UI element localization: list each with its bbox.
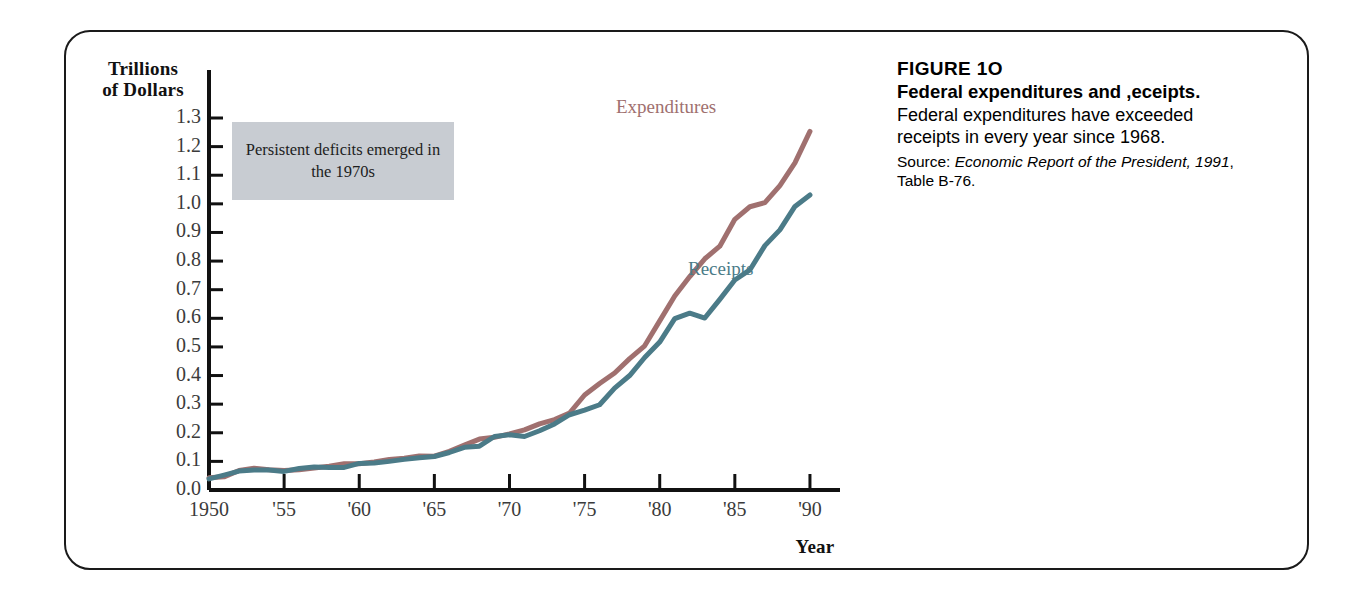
series-line-receipts [209,195,810,479]
y-axis-tick-label: 0.7 [147,277,201,300]
y-axis-title: Trillions of Dollars [88,58,198,100]
series-label-receipts: Receipts [688,258,753,280]
caption-source-prefix: Source: [897,153,955,170]
y-axis-tick-label: 1.2 [147,134,201,157]
x-axis-tick-label: '65 [399,498,469,521]
x-axis-tick-label: '75 [550,498,620,521]
x-axis-tick-label: '55 [249,498,319,521]
y-axis-tick-label: 0.0 [147,477,201,500]
x-axis-ticks [209,474,810,490]
figure-caption: FIGURE 1O Federal expenditures and ,ecei… [897,58,1237,190]
x-axis-tick-label: '90 [775,498,845,521]
annotation-text: Persistent deficits emerged in the 1970s [232,139,454,183]
x-axis-tick-label: '70 [474,498,544,521]
caption-source: Source: Economic Report of the President… [897,152,1237,190]
series-label-expenditures: Expenditures [616,96,716,118]
y-axis-ticks [209,118,223,490]
y-axis-tick-label: 0.9 [147,219,201,242]
caption-body: Federal expenditures have exceeded recei… [897,104,1237,148]
y-axis-tick-label: 0.6 [147,305,201,328]
y-axis-tick-label: 0.3 [147,391,201,414]
annotation-box: Persistent deficits emerged in the 1970s [232,122,454,200]
x-axis-title: Year [770,536,860,557]
y-axis-tick-label: 1.0 [147,191,201,214]
caption-title: Federal expenditures and ,eceipts. [897,81,1237,103]
y-axis-tick-label: 0.1 [147,448,201,471]
x-axis-tick-label: '60 [324,498,394,521]
y-axis-tick-label: 1.3 [147,105,201,128]
caption-figure-number: FIGURE 1O [897,58,1237,80]
y-axis-title-line-1: Trillions [88,58,198,79]
y-axis-tick-label: 0.8 [147,248,201,271]
x-axis-tick-label: 1950 [174,498,244,521]
y-axis-tick-label: 0.4 [147,363,201,386]
y-axis-title-line-2: of Dollars [88,79,198,100]
x-axis-tick-label: '85 [700,498,770,521]
x-axis-tick-label: '80 [625,498,695,521]
y-axis-tick-label: 1.1 [147,162,201,185]
y-axis-tick-label: 0.5 [147,334,201,357]
caption-source-title: Economic Report of the President, 1991 [955,153,1230,170]
y-axis-tick-label: 0.2 [147,420,201,443]
